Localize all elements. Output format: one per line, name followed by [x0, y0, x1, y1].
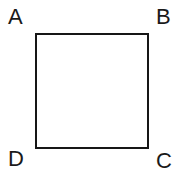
square-shape [35, 33, 149, 149]
vertex-label-a: A [8, 6, 23, 28]
vertex-label-c: C [156, 150, 172, 172]
geometry-figure: A B C D [0, 0, 178, 176]
vertex-label-b: B [156, 6, 171, 28]
vertex-label-d: D [8, 148, 24, 170]
